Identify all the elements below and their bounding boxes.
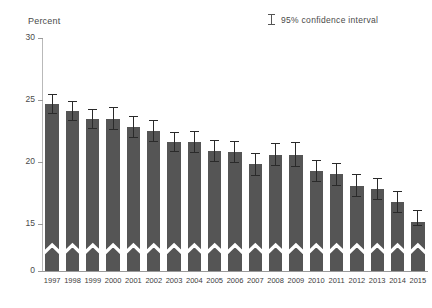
error-bar-line	[52, 94, 53, 114]
plot-area: 015202530	[42, 38, 428, 272]
bar-2012	[350, 186, 363, 271]
error-bar-line	[214, 140, 215, 162]
x-tick-label-2000: 2000	[103, 276, 123, 285]
x-tick-label-1998: 1998	[62, 276, 82, 285]
y-tick-label-30: 30	[26, 32, 35, 42]
bar-2002	[147, 131, 160, 271]
error-bar-cap-top	[271, 143, 280, 144]
error-bar-line	[336, 163, 337, 185]
error-bar-line	[417, 210, 418, 226]
bar-group	[310, 171, 323, 271]
bar-group	[350, 186, 363, 271]
error-bar-2008	[271, 143, 280, 165]
chart-legend: 95% confidence interval	[268, 14, 378, 25]
bar-group	[330, 174, 343, 271]
error-bar-line	[234, 141, 235, 163]
error-bar-cap-top	[68, 101, 77, 102]
x-tick-label-2005: 2005	[205, 276, 225, 285]
error-bar-cap-bottom	[230, 162, 239, 163]
bar-group	[66, 111, 79, 271]
error-bar-cap-top	[291, 142, 300, 143]
error-bar-2012	[352, 174, 361, 196]
x-tick-label-2012: 2012	[347, 276, 367, 285]
error-bar-2006	[230, 141, 239, 163]
x-tick-label-1999: 1999	[83, 276, 103, 285]
error-bar-cap-bottom	[129, 137, 138, 138]
error-bar-line	[356, 174, 357, 196]
error-bar-cap-top	[88, 109, 97, 110]
x-tick-label-2002: 2002	[144, 276, 164, 285]
bar-group	[269, 155, 282, 271]
error-bar-line	[133, 116, 134, 138]
error-bar-line	[295, 142, 296, 167]
error-bar-cap-top	[373, 178, 382, 179]
error-bar-1997	[48, 94, 57, 114]
error-bar-line	[255, 153, 256, 175]
bar-2003	[167, 142, 180, 271]
x-tick-label-2003: 2003	[164, 276, 184, 285]
error-bar-1999	[88, 109, 97, 129]
error-bar-cap-top	[210, 140, 219, 141]
error-bar-2002	[149, 120, 158, 142]
bar-group	[127, 127, 140, 271]
x-tick-label-2009: 2009	[286, 276, 306, 285]
error-bar-cap-bottom	[413, 225, 422, 226]
error-bar-2010	[312, 160, 321, 182]
error-bar-2009	[291, 142, 300, 167]
bar-group	[289, 155, 302, 271]
error-bar-cap-bottom	[291, 166, 300, 167]
bar-group	[411, 222, 424, 271]
bar-group	[167, 142, 180, 271]
error-bar-cap-top	[230, 141, 239, 142]
bar-2001	[127, 127, 140, 271]
legend-label-confidence-interval: 95% confidence interval	[281, 15, 378, 25]
error-bar-line	[194, 131, 195, 153]
x-tick-label-2008: 2008	[265, 276, 285, 285]
x-tick-label-2010: 2010	[306, 276, 326, 285]
bar-2011	[330, 174, 343, 271]
x-tick-label-2013: 2013	[367, 276, 387, 285]
error-bar-2007	[251, 153, 260, 175]
error-bar-cap-top	[129, 116, 138, 117]
x-tick-label-2004: 2004	[184, 276, 204, 285]
bar-2013	[371, 189, 384, 271]
error-bar-cap-bottom	[393, 212, 402, 213]
chart-figure: Percent 95% confidence interval 01520253…	[0, 0, 432, 308]
error-bar-cap-bottom	[190, 152, 199, 153]
y-tick-label-25: 25	[26, 94, 35, 104]
y-tick-label-15: 15	[26, 218, 35, 228]
x-tick-label-1997: 1997	[42, 276, 62, 285]
error-bar-cap-top	[170, 132, 179, 133]
error-bar-line	[92, 109, 93, 129]
bar-group	[371, 189, 384, 271]
bar-group	[45, 104, 58, 271]
x-tick-label-2006: 2006	[225, 276, 245, 285]
y-tick-label-20: 20	[26, 156, 35, 166]
error-bar-cap-top	[109, 107, 118, 108]
error-bar-cap-bottom	[170, 151, 179, 152]
error-bar-cap-bottom	[48, 113, 57, 114]
error-bar-1998	[68, 101, 77, 121]
error-bar-2004	[190, 131, 199, 153]
bar-2004	[188, 142, 201, 271]
error-bar-cap-bottom	[312, 181, 321, 182]
error-bar-line	[275, 143, 276, 165]
x-tick-label-2015: 2015	[408, 276, 428, 285]
error-bar-2013	[373, 178, 382, 200]
bar-2008	[269, 155, 282, 271]
error-bar-2015	[413, 210, 422, 226]
error-bar-cap-bottom	[210, 161, 219, 162]
bar-2015	[411, 222, 424, 271]
x-tick-label-2007: 2007	[245, 276, 265, 285]
error-bar-line	[153, 120, 154, 142]
bar-2005	[208, 151, 221, 271]
x-axis-tick-labels: 1997199819992000200120022003200420052006…	[42, 276, 428, 290]
bar-group	[391, 202, 404, 271]
error-bar-2011	[332, 163, 341, 185]
error-bar-cap-bottom	[149, 141, 158, 142]
error-bar-cap-bottom	[68, 120, 77, 121]
error-bar-line	[377, 178, 378, 200]
bar-series	[42, 38, 428, 272]
error-bar-cap-top	[190, 131, 199, 132]
bar-group	[147, 131, 160, 271]
